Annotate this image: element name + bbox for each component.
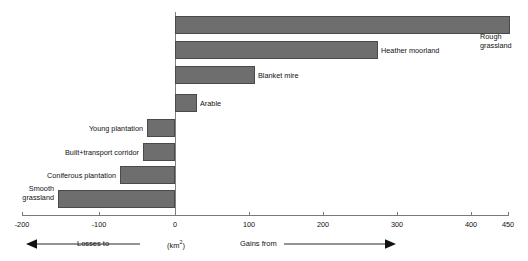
x-tick-label--200: -200 xyxy=(2,220,42,229)
x-tick-label-300: 300 xyxy=(377,220,417,229)
x-tick-label-200: 200 xyxy=(303,220,343,229)
bar-label-line1: Smooth xyxy=(29,184,54,193)
x-tick-label-400: 400 xyxy=(451,220,491,229)
x-axis-line xyxy=(22,215,509,216)
x-tick-200 xyxy=(323,212,324,216)
x-tick-label-0: 0 xyxy=(155,220,195,229)
gains-label: Gains from xyxy=(240,239,277,248)
units-open-paren: (km xyxy=(167,241,180,250)
bar-label-line1: Rough xyxy=(480,32,502,41)
bar-smooth-grassland xyxy=(58,190,175,208)
x-tick-label-100: 100 xyxy=(229,220,269,229)
x-tick-label-450: 450 xyxy=(488,220,528,229)
x-tick-100 xyxy=(249,212,250,216)
x-tick-300 xyxy=(397,212,398,216)
x-tick--200 xyxy=(22,212,23,216)
bar-label-rough-grassland: Rough grassland xyxy=(480,32,528,50)
x-tick-label--100: -100 xyxy=(79,220,119,229)
bar-built-transport-corridor xyxy=(143,143,175,161)
bar-young-plantation xyxy=(147,119,175,137)
bar-arable xyxy=(175,94,197,112)
x-tick-400 xyxy=(471,212,472,216)
bar-heather-moorland xyxy=(175,41,378,59)
losses-label: Losses to xyxy=(77,239,109,248)
bar-label-line2: grassland xyxy=(480,41,512,50)
bar-label-line2: grassland xyxy=(22,193,54,202)
units-close-paren: ) xyxy=(182,241,185,250)
bar-label-heather-moorland: Heather moorland xyxy=(381,46,439,55)
bar-label-arable: Arable xyxy=(200,99,221,108)
chart-container: Rough grassland Heather moorland Blanket… xyxy=(0,0,528,261)
plot-area: Rough grassland Heather moorland Blanket… xyxy=(0,0,528,261)
bar-label-smooth-grassland: Smooth grassland xyxy=(0,184,54,202)
bar-label-coniferous-plantation: Coniferous plantation xyxy=(0,171,116,180)
x-tick--100 xyxy=(99,212,100,216)
bar-label-blanket-mire: Blanket mire xyxy=(258,71,299,80)
x-tick-0 xyxy=(175,212,176,216)
x-tick-450 xyxy=(508,212,509,216)
bar-label-built-transport-corridor: Built+transport corridor xyxy=(12,148,139,157)
bar-rough-grassland xyxy=(175,16,510,34)
bar-coniferous-plantation xyxy=(120,166,175,184)
bar-label-young-plantation: Young plantation xyxy=(22,124,143,133)
gains-arrow-icon xyxy=(284,238,396,250)
bar-blanket-mire xyxy=(175,66,255,84)
units-label: (km2) xyxy=(167,239,185,250)
